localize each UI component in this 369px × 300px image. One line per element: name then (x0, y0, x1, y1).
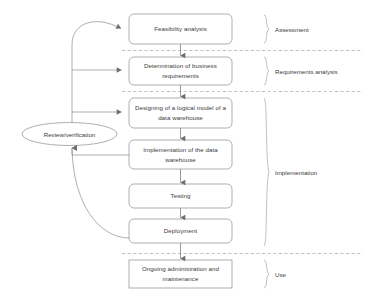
node-requirements (129, 57, 232, 85)
bracket-requirements-analysis (264, 57, 269, 85)
bracket-use (264, 260, 269, 288)
feedback-edge-from-deployment (72, 148, 129, 238)
node-review-verification (22, 123, 117, 146)
flowchart-canvas (0, 0, 369, 300)
node-logical-model (129, 98, 232, 128)
flowchart-diagram: Feasibility analysis Determination of bu… (0, 0, 369, 300)
feedback-edge-to-feasibility (72, 22, 121, 45)
node-testing (129, 184, 232, 208)
node-implementation (129, 140, 232, 169)
bracket-assessment (264, 15, 269, 43)
node-feasibility (129, 14, 232, 44)
node-ongoing (129, 260, 232, 288)
phase-label-implementation: Implementation (275, 169, 317, 177)
feedback-edge-from-implementation (72, 148, 129, 155)
bracket-implementation (264, 98, 269, 246)
phase-label-assessment: Assessment (275, 26, 309, 34)
node-deployment (129, 219, 232, 243)
phase-label-requirements-analysis: Requirements analysis (275, 68, 338, 76)
phase-label-use: Use (275, 271, 286, 279)
